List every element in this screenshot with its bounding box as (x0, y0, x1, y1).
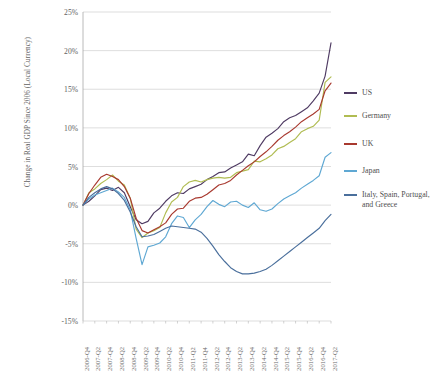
x-axis-tick: 2011-Q2 (188, 347, 195, 371)
x-axis-tick: 2014-Q4 (271, 347, 278, 371)
x-axis-tick: 2013-Q2 (236, 347, 243, 371)
y-axis-tick: -5% (42, 239, 78, 248)
y-axis-tick: 5% (42, 162, 78, 171)
legend-item-japan[interactable]: Japan (344, 166, 380, 176)
series-line-us (83, 43, 331, 224)
legend-swatch-icon (344, 194, 357, 196)
legend-item-germany[interactable]: Germany (344, 111, 391, 121)
legend-label: Italy, Spain, Portugal, and Greece (362, 190, 435, 209)
gdp-line-chart: Change in Real GDP Since 2006 (Local Cur… (0, 0, 435, 373)
y-axis-tick: 10% (42, 123, 78, 132)
y-axis-tick: -10% (42, 278, 78, 287)
x-axis-tick: 2017-Q2 (330, 347, 337, 371)
y-axis-tick: 15% (42, 85, 78, 94)
series-line-italy-spain-portugal-and-greece (83, 187, 331, 274)
x-axis-tick: 2011-Q4 (200, 347, 207, 371)
legend-label: Germany (362, 111, 391, 121)
x-axis-tick: 2013-Q4 (247, 347, 254, 371)
legend-swatch-icon (344, 170, 357, 172)
legend-label: UK (362, 139, 373, 149)
legend-item-uk[interactable]: UK (344, 139, 373, 149)
x-axis-tick: 2008-Q2 (118, 347, 125, 371)
legend-label: Japan (362, 166, 380, 176)
x-axis-tick: 2010-Q4 (177, 347, 184, 371)
x-axis-tick: 2015-Q4 (295, 347, 302, 371)
x-axis-tick: 2014-Q2 (259, 347, 266, 371)
y-axis-tick: 20% (42, 46, 78, 55)
legend-item-us[interactable]: US (344, 88, 372, 98)
legend-item-italy-spain-portugal-and-greece[interactable]: Italy, Spain, Portugal, and Greece (344, 190, 435, 209)
y-axis-tick: 25% (42, 8, 78, 17)
x-axis-tick-labels: 2006-Q42007-Q22007-Q42008-Q22008-Q42009-… (0, 318, 435, 373)
legend-swatch-icon (344, 115, 357, 117)
legend-swatch-icon (344, 92, 357, 94)
legend-label: US (362, 88, 372, 98)
x-axis-tick: 2008-Q4 (129, 347, 136, 371)
x-axis-tick: 2016-Q4 (318, 347, 325, 371)
x-axis-tick: 2016-Q2 (306, 347, 313, 371)
x-axis-tick: 2009-Q4 (153, 347, 160, 371)
x-axis-tick: 2012-Q2 (212, 347, 219, 371)
y-axis-tick: 0% (42, 201, 78, 210)
legend-swatch-icon (344, 143, 357, 145)
series-line-germany (83, 77, 331, 238)
x-axis-tick: 2015-Q2 (283, 347, 290, 371)
x-axis-tick: 2007-Q2 (94, 347, 101, 371)
x-axis-tick: 2007-Q4 (106, 347, 113, 371)
x-axis-tick: 2010-Q2 (165, 347, 172, 371)
series-line-uk (83, 83, 331, 233)
x-axis-tick: 2006-Q4 (82, 347, 89, 371)
x-axis-tick: 2012-Q4 (224, 347, 231, 371)
x-axis-tick: 2009-Q2 (141, 347, 148, 371)
